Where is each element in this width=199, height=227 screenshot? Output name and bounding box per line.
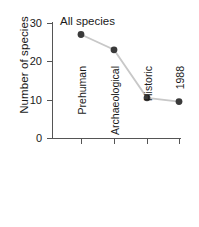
- y-tick-mark-10: [47, 100, 52, 101]
- y-tick-label-30: 30: [16, 18, 42, 29]
- data-point-archaeological: [111, 46, 118, 53]
- chart-title: All species: [60, 15, 115, 27]
- series-line: [81, 35, 179, 102]
- chart-figure: Number of species 30 20 10 0 All species…: [0, 0, 199, 227]
- y-tick-mark-0: [47, 138, 52, 139]
- y-tick-mark-30: [47, 23, 52, 24]
- x-tick-label-archaeological: Archaeological: [108, 66, 122, 146]
- x-tick-label-prehuman: Prehuman: [75, 66, 89, 146]
- data-point-prehuman: [78, 31, 85, 38]
- y-axis-line: [52, 22, 53, 139]
- y-tick-label-0: 0: [16, 133, 42, 144]
- y-tick-label-10: 10: [16, 95, 42, 106]
- y-tick-mark-20: [47, 61, 52, 62]
- y-tick-label-20: 20: [16, 56, 42, 67]
- x-tick-label-1988: 1988: [173, 66, 187, 146]
- x-tick-label-historic: Historic: [141, 66, 155, 146]
